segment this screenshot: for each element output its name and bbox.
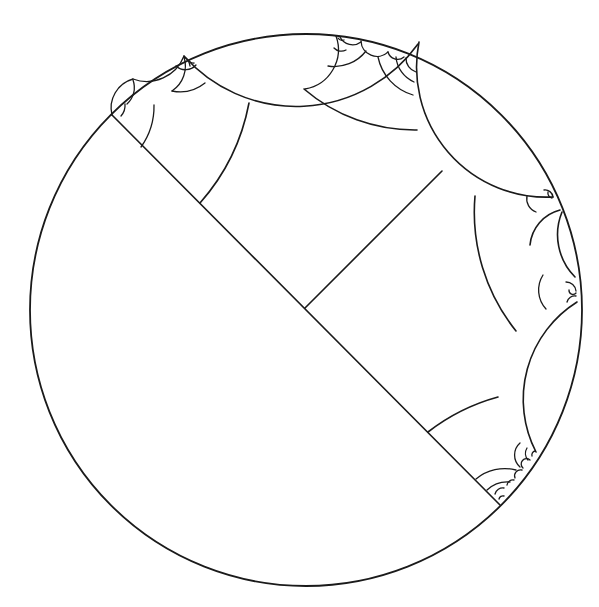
br-arc-1 [476,469,516,479]
r-arc-5 [566,282,576,291]
br-arc-7 [515,470,522,478]
top-arc-9 [406,58,416,72]
diagram-canvas [0,0,599,607]
top-arc-6 [378,57,413,95]
br-arc-9 [532,451,535,456]
perpendicular-line [305,171,442,308]
tl-arc-10 [190,62,194,63]
top-arc [184,44,418,106]
arc-lower-connector [428,397,498,432]
arc-left-spoke [200,103,249,203]
right-bulge-inner [530,210,560,245]
top-arc-2 [328,51,366,67]
small-geodesic-arcs-right [527,190,576,309]
main-diameter-line [112,115,500,505]
tl-arc-5 [127,80,134,104]
br-arc-6 [507,480,514,485]
top-arc-3 [334,48,346,51]
br-arc-3 [515,443,520,467]
top-arc-1 [305,36,338,89]
r-arc-4 [539,275,546,309]
tl-arc-3 [141,105,154,147]
right-middle-arc [474,196,516,331]
right-small-bulge [558,212,575,277]
r-arc-6 [567,296,576,302]
br-arc-8 [521,459,530,468]
br-arc-10 [499,496,504,499]
br-arc-5 [495,488,504,494]
lower-right-arc [523,302,577,452]
upper-right-arc [417,42,553,197]
r-arc-1 [527,196,536,212]
r-arc-7 [569,290,576,294]
arc-top-connector [304,89,417,130]
hyperbolic-tiling-svg [0,0,599,607]
